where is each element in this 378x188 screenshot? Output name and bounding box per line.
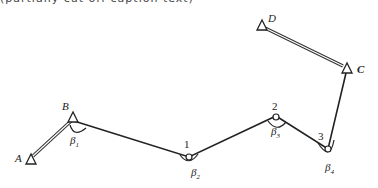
traverse-legs [74, 73, 346, 157]
label-beta1: β1 [69, 134, 79, 149]
label-beta4: β4 [324, 161, 334, 176]
label-point-2: 2 [272, 100, 278, 112]
label-beta2: β2 [190, 166, 200, 181]
point-3-marker [325, 146, 331, 152]
label-point-3: 3 [318, 130, 324, 142]
traverse-diagram: A B C D 1 2 3 β1 β2 β3 β4 [0, 0, 378, 188]
known-side-d-c [265, 28, 343, 66]
label-c: C [357, 63, 365, 75]
point-1-marker [186, 154, 192, 160]
triangle-b-icon [68, 112, 78, 122]
point-2-marker [273, 114, 279, 120]
label-a: A [14, 152, 22, 164]
label-d: D [267, 12, 276, 24]
triangle-d-icon [257, 20, 267, 30]
angle-arc-beta1 [70, 125, 86, 132]
known-side-a-b [33, 121, 71, 156]
label-point-1: 1 [184, 138, 190, 150]
label-b: B [62, 100, 69, 112]
